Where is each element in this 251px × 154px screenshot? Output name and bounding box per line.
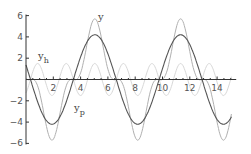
x-tick-label: 8	[132, 83, 138, 93]
y-tick-label: 2	[17, 53, 23, 63]
x-tick-label: 6	[105, 83, 111, 93]
x-tick-label: 12	[184, 83, 195, 93]
y-tick-label: −6	[10, 138, 24, 148]
y-tick-label: 4	[17, 32, 23, 42]
label-y: y	[97, 11, 104, 22]
axes: −6−4−22462468101214	[10, 11, 236, 149]
x-tick-label: 2	[50, 83, 56, 93]
label-y-h: yh	[37, 50, 49, 65]
x-tick-label: 14	[211, 83, 223, 93]
y-tick-label: −4	[10, 117, 24, 127]
y-tick-label: 6	[17, 11, 23, 21]
label-y-p: yp	[73, 102, 85, 117]
x-tick-label: 10	[157, 83, 169, 93]
chart: −6−4−22462468101214 y yh yp	[0, 0, 251, 154]
y-tick-label: −2	[10, 96, 23, 106]
x-tick-label: 4	[78, 83, 84, 93]
